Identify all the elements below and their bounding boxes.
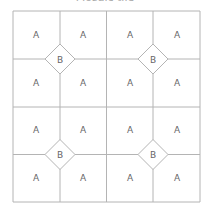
cell-label-a: A <box>127 173 134 183</box>
diamond-label-b: B <box>57 55 63 65</box>
cell-label-a: A <box>174 30 181 40</box>
cell-label-a: A <box>33 30 40 40</box>
diamond-label-b: B <box>150 150 156 160</box>
cell-label-a: A <box>33 125 40 135</box>
cell-label-a: A <box>174 78 181 88</box>
cell-label-a: A <box>127 30 134 40</box>
cell-label-a: A <box>80 78 87 88</box>
diamond-label-b: B <box>150 55 156 65</box>
cell-label-a: A <box>127 125 134 135</box>
cell-label-a: A <box>174 173 181 183</box>
cell-label-a: A <box>80 173 87 183</box>
cell-label-a: A <box>80 125 87 135</box>
cell-label-a: A <box>127 78 134 88</box>
cell-label-a: A <box>174 125 181 135</box>
cell-label-a: A <box>80 30 87 40</box>
cell-label-a: A <box>33 78 40 88</box>
cell-label-a: A <box>33 173 40 183</box>
tile-diagram: AAAAAAAAAAAAAAAABBBB <box>0 0 210 213</box>
diamond-label-b: B <box>57 150 63 160</box>
